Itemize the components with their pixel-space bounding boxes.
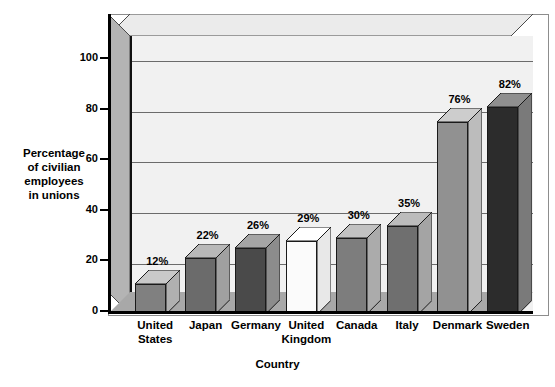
bar-front-face xyxy=(235,248,266,314)
bar-value-label: 82% xyxy=(479,78,540,90)
y-axis-title-line-2: of civilian xyxy=(8,160,100,174)
x-axis-title: Country xyxy=(0,358,555,370)
category-label-line-2: Kingdom xyxy=(273,332,339,346)
bar-side-face xyxy=(468,108,482,314)
x-axis-line xyxy=(108,311,533,314)
bar-side-face xyxy=(266,234,280,314)
y-tick-0 xyxy=(100,310,110,312)
bar-side-face xyxy=(518,93,532,314)
bar-united-kingdom[interactable] xyxy=(286,227,331,314)
bar-front-face xyxy=(487,107,518,314)
bar-value-label: 76% xyxy=(429,93,490,105)
bar-italy[interactable] xyxy=(387,212,432,314)
category-label-line-1: Sweden xyxy=(475,318,541,332)
category-label-sweden: Sweden xyxy=(475,318,541,332)
y-tick-label-40: 40 xyxy=(58,204,98,215)
bar-side-face xyxy=(317,227,331,314)
bar-front-face xyxy=(437,122,468,314)
category-label-line-2: States xyxy=(122,332,188,346)
bar-front-face xyxy=(135,284,166,314)
bar-side-face xyxy=(367,224,381,314)
bar-side-face xyxy=(166,270,180,314)
bar-front-face xyxy=(286,241,317,314)
bar-chart: 020406080100 UnitedStatesJapanGermanyUni… xyxy=(0,0,555,387)
bar-side-face xyxy=(418,212,432,314)
y-tick-label-0: 0 xyxy=(58,305,98,316)
bar-sweden[interactable] xyxy=(487,93,532,314)
bar-front-face xyxy=(185,258,216,314)
bar-value-label: 30% xyxy=(328,209,389,221)
y-tick-label-80: 80 xyxy=(58,103,98,114)
y-tick-100 xyxy=(100,57,110,59)
y-axis-title: Percentage of civilian employees in unio… xyxy=(8,146,100,202)
bar-front-face xyxy=(336,238,367,314)
bar-value-label: 12% xyxy=(127,255,188,267)
plot-3d-shell xyxy=(108,14,533,314)
bar-japan[interactable] xyxy=(185,244,230,314)
y-axis-title-line-3: employees xyxy=(8,174,100,188)
bar-germany[interactable] xyxy=(235,234,280,314)
bar-canada[interactable] xyxy=(336,224,381,314)
y-tick-40 xyxy=(100,209,110,211)
bar-united-states[interactable] xyxy=(135,270,180,314)
bar-side-face xyxy=(216,244,230,314)
y-axis-title-line-1: Percentage xyxy=(8,146,100,160)
bar-front-face xyxy=(387,226,418,314)
y-tick-label-20: 20 xyxy=(58,254,98,265)
y-tick-label-100: 100 xyxy=(58,52,98,63)
y-axis-title-line-4: in unions xyxy=(8,188,100,202)
y-tick-80 xyxy=(100,108,110,110)
bar-value-label: 35% xyxy=(379,197,440,209)
bars-layer xyxy=(108,14,533,314)
bar-denmark[interactable] xyxy=(437,108,482,314)
y-tick-20 xyxy=(100,259,110,261)
y-tick-60 xyxy=(100,158,110,160)
